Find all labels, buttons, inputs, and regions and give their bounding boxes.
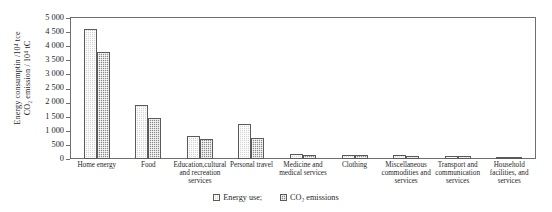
bar-co2-emissions	[97, 52, 110, 159]
legend-label-co2-emissions: CO₂ emissions	[290, 193, 339, 202]
bar-energy-use	[290, 154, 303, 159]
bar-group	[187, 18, 213, 159]
chart-legend: Energy use; CO₂ emissions	[0, 193, 552, 202]
y-tick-mark	[66, 159, 70, 160]
bar-co2-emissions	[406, 156, 419, 159]
bar-co2-emissions	[458, 156, 471, 159]
bar-co2-emissions	[303, 155, 316, 159]
x-axis-label-line: medical services	[270, 169, 336, 177]
y-tick-label: 3 500	[45, 56, 64, 64]
y-tick-label: 3 000	[45, 70, 64, 78]
y-tick-label: 1 000	[45, 127, 64, 135]
y-tick-label: 500	[51, 141, 64, 149]
x-axis-label-line: services	[476, 177, 542, 185]
y-tick-label: 5 000	[45, 14, 64, 22]
bar-co2-emissions	[251, 138, 264, 159]
x-axis-label-line: services	[167, 177, 233, 185]
bar-energy-use	[393, 155, 406, 159]
y-tick-label: 4 500	[45, 28, 64, 36]
bar-group	[393, 18, 419, 159]
y-tick-label: 2 500	[45, 84, 64, 92]
x-axis-label-line: Household	[476, 161, 542, 169]
y-tick-label: 1 500	[45, 113, 64, 121]
bar-group	[290, 18, 316, 159]
legend-swatch-energy-use-icon	[213, 194, 220, 201]
bar-energy-use	[135, 105, 148, 159]
y-axis-ticks: 5 0004 5004 0003 5003 0002 5002 0001 500…	[0, 0, 70, 212]
bar-energy-use	[342, 155, 355, 159]
bar-group	[238, 18, 264, 159]
bar-energy-use	[84, 29, 97, 159]
bar-energy-use	[187, 136, 200, 159]
y-tick-label: 4 000	[45, 42, 64, 50]
x-axis-label-line: facilities, and	[476, 169, 542, 177]
bar-group	[445, 18, 471, 159]
bar-co2-emissions	[148, 118, 161, 159]
x-axis-label-line: and recreation	[167, 169, 233, 177]
bar-energy-use	[496, 157, 509, 159]
x-axis-label: Householdfacilities, andservices	[476, 161, 542, 186]
bar-energy-use	[238, 124, 251, 159]
bars-layer	[71, 18, 535, 159]
bar-group	[496, 18, 522, 159]
y-tick-label: 2 000	[45, 98, 64, 106]
bar-co2-emissions	[200, 139, 213, 159]
bar-group	[84, 18, 110, 159]
bar-energy-use	[445, 156, 458, 159]
x-axis-labels: Home energyFoodEducation,culturaland rec…	[71, 161, 535, 197]
bar-group	[342, 18, 368, 159]
legend-item-co2-emissions: CO₂ emissions	[280, 193, 339, 202]
legend-swatch-co2-emissions-icon	[280, 194, 287, 201]
bar-chart: Energy consumptin /10⁴ tce CO₂ emission …	[0, 0, 552, 212]
bar-co2-emissions	[355, 155, 368, 159]
legend-label-energy-use: Energy use;	[223, 193, 262, 202]
bar-co2-emissions	[509, 157, 522, 159]
bar-group	[135, 18, 161, 159]
legend-item-energy-use: Energy use;	[213, 193, 262, 202]
